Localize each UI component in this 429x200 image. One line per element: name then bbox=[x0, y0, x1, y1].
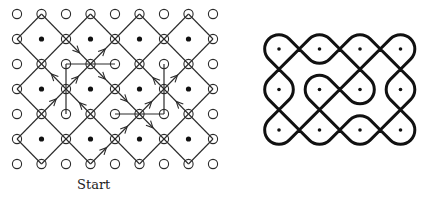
kolam-dot bbox=[358, 128, 362, 132]
lattice-line bbox=[164, 14, 189, 39]
lattice-line bbox=[91, 39, 116, 64]
lattice-line bbox=[91, 64, 116, 89]
kolam-dot bbox=[277, 47, 281, 51]
grid-dot bbox=[137, 36, 142, 41]
grid-dot bbox=[186, 136, 191, 141]
lattice-line bbox=[164, 39, 189, 64]
lattice-line bbox=[66, 39, 91, 64]
grid-dot bbox=[39, 136, 44, 141]
lattice-line bbox=[17, 14, 42, 39]
lattice-line bbox=[42, 39, 67, 64]
lattice-line bbox=[115, 39, 140, 64]
lattice-line bbox=[42, 64, 67, 89]
lattice-line bbox=[140, 139, 165, 164]
start-label: Start bbox=[77, 177, 110, 193]
crossed-circle bbox=[135, 9, 144, 18]
open-circle bbox=[159, 159, 168, 168]
open-circle bbox=[61, 159, 70, 168]
kolam-dot bbox=[318, 47, 322, 51]
lattice-line bbox=[66, 139, 91, 164]
open-circle bbox=[12, 59, 21, 68]
open-circle bbox=[12, 159, 21, 168]
lattice-line bbox=[42, 14, 67, 39]
lattice-line bbox=[66, 89, 91, 114]
kolam-curve bbox=[265, 35, 415, 145]
kolam-loop-pattern bbox=[265, 35, 415, 145]
lattice-line bbox=[140, 14, 165, 39]
grid-dot bbox=[88, 36, 93, 41]
lattice-line bbox=[189, 14, 214, 39]
grid-dot bbox=[39, 86, 44, 91]
open-circle bbox=[159, 9, 168, 18]
lattice-line bbox=[115, 64, 140, 89]
lattice-line bbox=[115, 14, 140, 39]
diamond-lattice-lines bbox=[17, 14, 213, 164]
kolam-figure bbox=[0, 0, 429, 200]
open-circle bbox=[110, 159, 119, 168]
lattice-line bbox=[17, 64, 42, 89]
grid-dot bbox=[137, 136, 142, 141]
grid-dot bbox=[137, 86, 142, 91]
lattice-line bbox=[140, 114, 165, 139]
crossed-circle bbox=[184, 9, 193, 18]
open-circle bbox=[208, 109, 217, 118]
grid-dot bbox=[88, 136, 93, 141]
grid-dot bbox=[186, 86, 191, 91]
open-circle bbox=[208, 9, 217, 18]
lattice-line bbox=[66, 14, 91, 39]
lattice-line bbox=[42, 114, 67, 139]
lattice-line bbox=[189, 89, 214, 114]
lattice-line bbox=[164, 114, 189, 139]
lattice-line bbox=[189, 64, 214, 89]
lattice-line bbox=[17, 139, 42, 164]
lattice-line bbox=[140, 39, 165, 64]
open-circle bbox=[61, 9, 70, 18]
grid-dot bbox=[186, 36, 191, 41]
lattice-line bbox=[189, 39, 214, 64]
lattice-line bbox=[164, 139, 189, 164]
kolam-dot bbox=[277, 88, 281, 92]
kolam-dot bbox=[399, 88, 403, 92]
open-circle bbox=[208, 159, 217, 168]
lattice-line bbox=[91, 89, 116, 114]
lattice-line bbox=[42, 89, 67, 114]
kolam-dot bbox=[358, 47, 362, 51]
kolam-dot bbox=[399, 128, 403, 132]
lattice-line bbox=[42, 139, 67, 164]
kolam-dot bbox=[399, 47, 403, 51]
kolam-dot bbox=[358, 88, 362, 92]
lattice-line bbox=[140, 64, 165, 89]
grid-dot bbox=[39, 36, 44, 41]
crossed-circle bbox=[37, 9, 46, 18]
lattice-line bbox=[17, 89, 42, 114]
lattice-line bbox=[91, 114, 116, 139]
lattice-line bbox=[17, 39, 42, 64]
grid-dot bbox=[88, 86, 93, 91]
kolam-dot bbox=[318, 88, 322, 92]
kolam-dot bbox=[277, 128, 281, 132]
dot-grid-construction-diagram bbox=[12, 9, 217, 168]
crossed-circle bbox=[86, 9, 95, 18]
lattice-line bbox=[91, 139, 116, 164]
open-circle bbox=[12, 109, 21, 118]
lattice-line bbox=[164, 64, 189, 89]
lattice-line bbox=[189, 139, 214, 164]
open-circle bbox=[12, 9, 21, 18]
kolam-line bbox=[265, 35, 415, 145]
lattice-line bbox=[66, 114, 91, 139]
lattice-line bbox=[189, 114, 214, 139]
lattice-line bbox=[115, 139, 140, 164]
lattice-line bbox=[17, 114, 42, 139]
kolam-dot bbox=[318, 128, 322, 132]
lattice-line bbox=[91, 14, 116, 39]
open-circle bbox=[110, 9, 119, 18]
open-circle bbox=[208, 59, 217, 68]
